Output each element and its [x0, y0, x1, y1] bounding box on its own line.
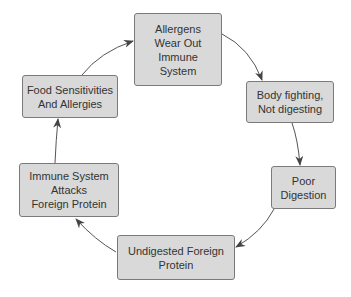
arrow-poor-digestion-to-undigested: [236, 209, 274, 247]
node-body-fighting-not-digesting: Body fighting, Not digesting: [246, 81, 334, 123]
arrow-undigested-to-immune-attacks: [76, 219, 116, 252]
node-label: Immune System Attacks Foreign Protein: [29, 169, 108, 211]
node-label: Body fighting, Not digesting: [257, 88, 324, 116]
node-label: Poor Digestion: [281, 174, 327, 202]
arrow-food-sensitivities-to-allergens: [82, 41, 133, 75]
node-label: Food Sensitivities And Allergies: [27, 83, 113, 111]
node-undigested-foreign-protein: Undigested Foreign Protein: [117, 235, 235, 280]
cycle-diagram: Allergens Wear Out Immune System Body fi…: [0, 0, 351, 297]
node-food-sensitivities-and-allergies: Food Sensitivities And Allergies: [22, 75, 118, 118]
node-label: Allergens Wear Out Immune System: [155, 22, 202, 78]
node-poor-digestion: Poor Digestion: [271, 166, 336, 209]
node-label: Undigested Foreign Protein: [128, 244, 224, 272]
arrow-body-fighting-to-poor-digestion: [292, 123, 300, 165]
node-immune-system-attacks-foreign-protein: Immune System Attacks Foreign Protein: [19, 163, 119, 217]
arrow-allergens-to-body-fighting: [222, 34, 262, 80]
node-allergens-wear-out-immune-system: Allergens Wear Out Immune System: [134, 13, 222, 86]
arrow-immune-attacks-to-food-sensitivities: [55, 119, 58, 163]
